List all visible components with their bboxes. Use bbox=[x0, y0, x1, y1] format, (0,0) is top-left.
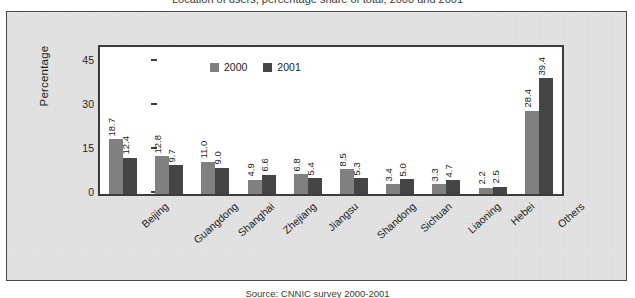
bar-2001[interactable]: 5.0 bbox=[400, 179, 414, 194]
chart-source: Source: CNNIC survey 2000-2001 bbox=[0, 288, 635, 298]
y-tick-label: 45 bbox=[82, 54, 94, 65]
x-tick-label: Jiangsu bbox=[325, 200, 360, 233]
bar-2001[interactable]: 5.3 bbox=[354, 178, 368, 194]
x-axis-labels: BeijingGuangdongShanghaiZhejiangJiangsuS… bbox=[100, 200, 562, 260]
bar-2000[interactable]: 28.4 bbox=[525, 111, 539, 194]
bar-2000[interactable]: 6.8 bbox=[294, 174, 308, 194]
bar-value-label: 3.4 bbox=[384, 168, 394, 181]
bar-group: 3.45.0 bbox=[377, 47, 423, 194]
bar-value-label: 5.3 bbox=[352, 162, 362, 175]
y-tick-label: 0 bbox=[88, 187, 94, 198]
bar-2001[interactable]: 6.6 bbox=[262, 175, 276, 194]
bar-2000[interactable]: 11.0 bbox=[201, 162, 215, 194]
bar-2001[interactable]: 4.7 bbox=[446, 180, 460, 194]
bar-value-label: 8.5 bbox=[338, 153, 348, 166]
bar-2000[interactable]: 2.2 bbox=[479, 188, 493, 194]
bar-2000[interactable]: 3.3 bbox=[432, 184, 446, 194]
bar-2001[interactable]: 12.4 bbox=[123, 158, 137, 194]
bar-value-label: 5.0 bbox=[398, 163, 408, 176]
bar-value-label: 2.5 bbox=[490, 170, 500, 183]
x-tick-label: Hebei bbox=[508, 200, 536, 227]
bar-2001[interactable]: 9.7 bbox=[169, 165, 183, 194]
bar-value-label: 28.4 bbox=[522, 89, 532, 108]
y-tick-label: 15 bbox=[82, 143, 94, 154]
x-tick-label: Sichuan bbox=[418, 200, 454, 234]
x-tick-label: Beijing bbox=[139, 200, 170, 230]
bar-group: 12.89.7 bbox=[146, 47, 192, 194]
x-tick-label: Liaoning bbox=[465, 200, 503, 235]
x-tick-label: Others bbox=[555, 200, 586, 230]
bar-group: 2.22.5 bbox=[470, 47, 516, 194]
bar-value-label: 39.4 bbox=[536, 57, 546, 76]
bar-value-label: 5.4 bbox=[305, 162, 315, 175]
bar-group: 4.96.6 bbox=[239, 47, 285, 194]
x-tick-label: Shanghai bbox=[235, 200, 276, 239]
bar-value-label: 2.2 bbox=[476, 171, 486, 184]
bars-container: 18.712.412.89.711.09.04.96.66.85.48.55.3… bbox=[100, 47, 562, 194]
bar-2001[interactable]: 39.4 bbox=[539, 78, 553, 194]
bar-group: 3.34.7 bbox=[423, 47, 469, 194]
bar-value-label: 4.7 bbox=[444, 164, 454, 177]
bar-value-label: 6.8 bbox=[291, 158, 301, 171]
bar-value-label: 3.3 bbox=[430, 168, 440, 181]
bar-group: 6.85.4 bbox=[285, 47, 331, 194]
bar-2001[interactable]: 5.4 bbox=[308, 178, 322, 194]
x-tick-label: Shandong bbox=[374, 200, 418, 241]
bar-value-label: 11.0 bbox=[199, 141, 209, 159]
chart-caption: Location of users, percentage share of t… bbox=[0, 0, 635, 5]
bar-2001[interactable]: 9.0 bbox=[215, 168, 229, 194]
bar-value-label: 9.0 bbox=[213, 151, 223, 164]
chart-page: Location of users, percentage share of t… bbox=[0, 0, 635, 298]
y-axis-label: Percentage bbox=[38, 21, 50, 131]
x-tick-label: Zhejiang bbox=[280, 200, 318, 236]
bar-value-label: 18.7 bbox=[107, 118, 117, 137]
bar-value-label: 6.6 bbox=[259, 158, 269, 171]
x-tick-label: Guangdong bbox=[191, 200, 240, 246]
y-axis-ticks: 0153045 bbox=[62, 45, 94, 196]
bar-group: 11.09.0 bbox=[192, 47, 238, 194]
bar-group: 28.439.4 bbox=[516, 47, 562, 194]
bar-2000[interactable]: 3.4 bbox=[386, 184, 400, 194]
bar-group: 8.55.3 bbox=[331, 47, 377, 194]
y-tick-label: 30 bbox=[82, 99, 94, 110]
bar-2001[interactable]: 2.5 bbox=[493, 187, 507, 194]
bar-group: 18.712.4 bbox=[100, 47, 146, 194]
chart-panel: 0153045 Percentage 20002001 18.712.412.8… bbox=[6, 11, 627, 281]
bar-value-label: 12.4 bbox=[121, 136, 131, 155]
bar-value-label: 9.7 bbox=[167, 149, 177, 162]
bar-value-label: 12.8 bbox=[153, 135, 163, 154]
bar-2000[interactable]: 4.9 bbox=[248, 180, 262, 194]
bar-value-label: 4.9 bbox=[245, 163, 255, 176]
